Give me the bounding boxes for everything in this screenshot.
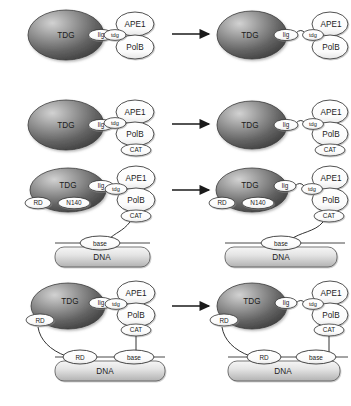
lig-tag-label: lig [283,121,290,129]
tdg-blob-label: TDG [243,297,260,306]
lig-tag-label: lig [98,31,105,39]
polb-label: PolB [322,130,340,139]
lig-tag-label: lig [282,182,289,190]
lig-tag-label: lig [98,121,105,129]
lig-tag-label: lig [98,299,105,307]
rd-tag-label: RD [35,317,45,324]
n140-tag-label: N140 [250,199,266,206]
n140-tag-label: N140 [66,199,82,206]
polb-label: PolB [322,311,340,320]
tdg-blob-label: TDG [241,121,258,130]
polb-label: PolB [322,43,340,52]
polb-label: PolB [322,196,340,205]
rd-node-label: RD [259,354,269,361]
diagram-canvas: TDG lig APE1 PolB tdg TDG lig APE1 PolB … [0,0,351,406]
tdg-tag-label: tdg [309,121,317,127]
base-node-label: base [274,240,288,247]
polb-label: PolB [126,43,144,52]
lig-tag-label: lig [283,31,290,39]
ape1-label: APE1 [321,108,342,117]
cat-label: CAT [323,326,335,333]
ape1-label: APE1 [321,174,342,183]
cat-label: CAT [130,212,142,219]
tdg-blob-label: TDG [57,31,74,40]
cat-label: CAT [130,326,142,333]
base-node-label: base [127,354,141,361]
dna-label: DNA [272,253,290,262]
tdg-tag-label: tdg [112,301,120,307]
dna-label: DNA [93,253,111,262]
tdg-blob-label: TDG [241,31,258,40]
tdg-tag-label: tdg [112,186,120,192]
tdg-tag-label: tdg [309,32,317,38]
tdg-tag-label: tdg [309,301,317,307]
lig-tag-label: lig [98,182,105,190]
tdg-blob-label: TDG [59,181,76,190]
interaction-diagram: TDG lig APE1 PolB tdg TDG lig APE1 PolB … [0,0,351,406]
rd-tag-label: RD [33,199,43,206]
ape1-label: APE1 [126,174,147,183]
row-1-left-panel: TDG lig APE1 PolB tdg [28,10,154,60]
tdg-blob-label: TDG [61,297,78,306]
rd-tag-label: RD [217,199,227,206]
base-node-label: base [309,354,323,361]
tdg-tag-label: tdg [308,186,316,192]
lig-tag-label: lig [283,299,290,307]
tdg-tag-label: tdg [111,120,119,126]
tdg-tag-label: tdg [111,32,119,38]
cat-label: CAT [130,146,142,153]
ape1-label: APE1 [321,289,342,298]
ape1-label: APE1 [125,108,146,117]
ape1-label: APE1 [321,20,342,29]
ape1-label: APE1 [126,289,147,298]
dna-label: DNA [274,367,292,376]
cat-label: CAT [324,146,336,153]
base-node-label: base [93,240,107,247]
dna-label: DNA [96,367,114,376]
tdg-blob-label: TDG [241,181,258,190]
polb-label: PolB [127,311,145,320]
rd-node-label: RD [75,354,85,361]
tdg-blob-label: TDG [57,121,74,130]
rd-tag-label: RD [219,317,229,324]
ape1-label: APE1 [125,20,146,29]
polb-label: PolB [127,196,145,205]
polb-label: PolB [126,130,144,139]
cat-label: CAT [323,212,335,219]
